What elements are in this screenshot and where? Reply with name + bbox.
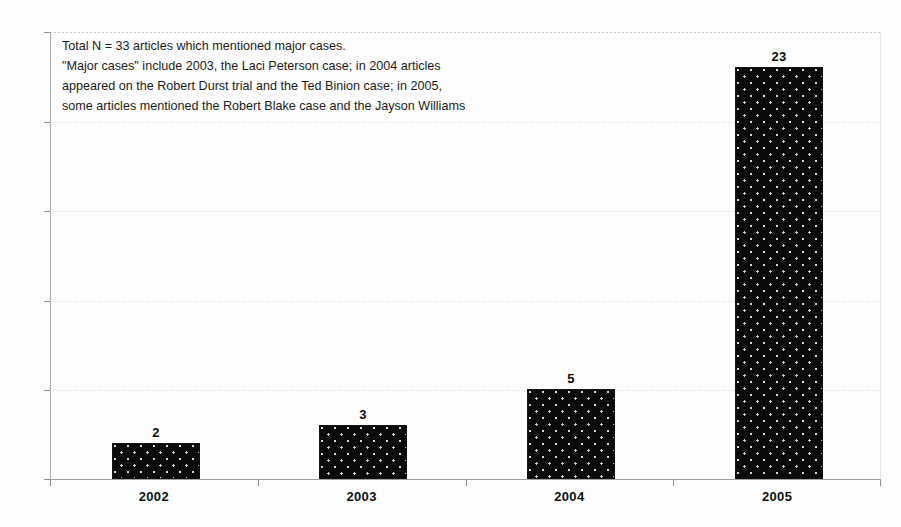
y-tick-mark [44, 390, 50, 391]
y-tick-mark [44, 301, 50, 302]
annotation-line-1: Total N = 33 articles which mentioned ma… [62, 36, 622, 56]
chart-annotation: Total N = 33 articles which mentioned ma… [62, 36, 622, 116]
y-tick-mark [44, 122, 50, 123]
annotation-line-3: appeared on the Robert Durst trial and t… [62, 76, 622, 96]
annotation-line-2: "Major cases" include 2003, the Laci Pet… [62, 56, 622, 76]
bar-value-2003: 3 [319, 407, 407, 422]
x-tick-mark [880, 480, 881, 486]
x-tick-label-2002: 2002 [50, 489, 258, 504]
x-tick-label-2005: 2005 [673, 489, 881, 504]
x-tick-mark [673, 480, 674, 486]
bar-2004 [527, 389, 615, 479]
x-tick-label-2003: 2003 [258, 489, 466, 504]
bar-2003 [319, 425, 407, 479]
bar-value-2005: 23 [735, 49, 823, 64]
plot-right-border [880, 32, 881, 480]
bar-2002 [112, 443, 200, 479]
gridline-25 [50, 32, 881, 33]
y-tick-mark [44, 32, 50, 33]
annotation-line-4: some articles mentioned the Robert Blake… [62, 96, 622, 116]
x-tick-mark [50, 480, 51, 486]
bar-value-2004: 5 [527, 371, 615, 386]
y-tick-mark [44, 211, 50, 212]
plot-area: 2 3 5 23 Total N = 33 articles which men… [50, 32, 881, 480]
x-tick-mark [466, 480, 467, 486]
bar-value-2002: 2 [112, 425, 200, 440]
y-axis-line [50, 32, 51, 480]
x-tick-label-2004: 2004 [466, 489, 674, 504]
chart-figure: 25 20 15 10 5 0 2 3 5 23 [0, 0, 901, 527]
x-tick-mark [258, 480, 259, 486]
bar-2005 [735, 67, 823, 479]
